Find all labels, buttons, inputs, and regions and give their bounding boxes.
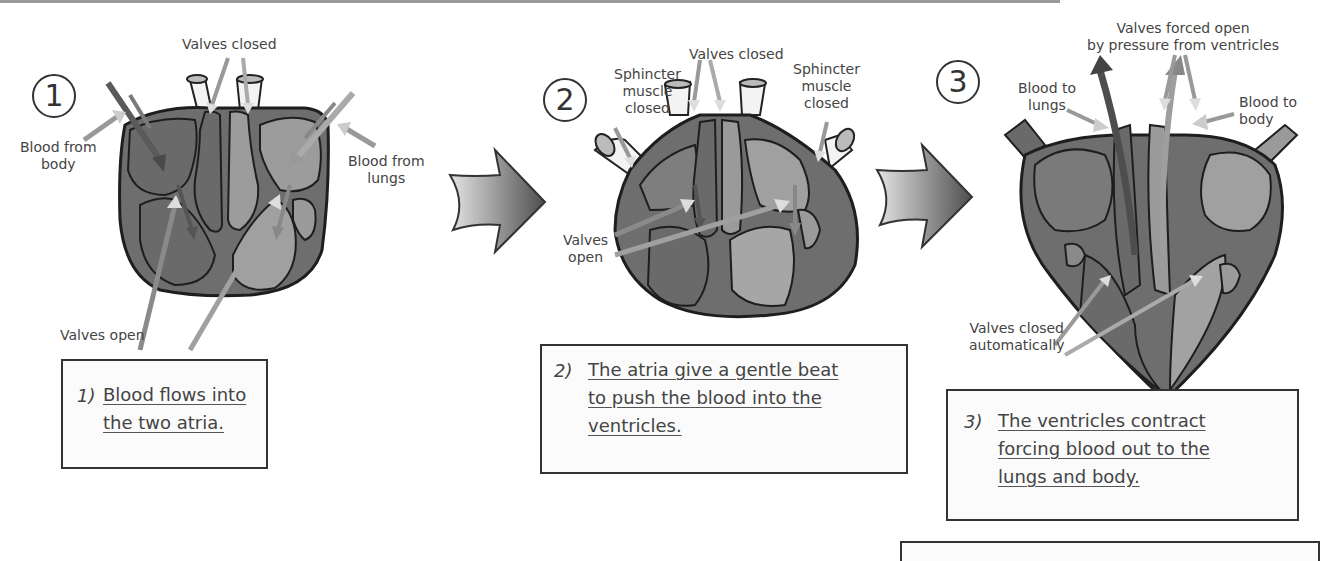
label-blood-from-lungs-1: Blood from lungs xyxy=(348,153,425,187)
label-blood-to-body: Blood to body xyxy=(1239,94,1297,128)
label-line: Blood to xyxy=(1018,80,1076,97)
caption-box-2: 2) The atria give a gentle beat to push … xyxy=(540,344,908,474)
caption-line: Blood flows into xyxy=(103,381,246,409)
label-line: lungs xyxy=(348,170,425,187)
label-line: Blood from xyxy=(20,139,97,156)
label-line: closed xyxy=(793,95,860,112)
label-valves-open-2: Valves open xyxy=(563,232,608,266)
transition-arrow-2 xyxy=(872,140,972,250)
step-number-1: 1 xyxy=(32,74,76,118)
caption-number-3: 3) xyxy=(964,411,982,432)
caption-box-3: 3) The ventricles contract forcing blood… xyxy=(946,389,1299,521)
label-sphincter-right: Sphincter muscle closed xyxy=(793,61,860,112)
next-caption-box-partial xyxy=(900,541,1320,561)
label-line: Sphincter xyxy=(793,61,860,78)
caption-line: ventricles. xyxy=(588,412,838,440)
caption-line: to push the blood into the xyxy=(588,384,838,412)
caption-number-2: 2) xyxy=(554,360,572,381)
label-line: body xyxy=(20,156,97,173)
label-valves-closed-1: Valves closed xyxy=(182,36,277,53)
label-line: Valves xyxy=(563,232,608,249)
label-line: closed xyxy=(614,100,681,117)
caption-text-1: Blood flows into the two atria. xyxy=(103,381,246,437)
heart-diagram-1 xyxy=(100,50,460,350)
label-valves-forced-open: Valves forced open by pressure from vent… xyxy=(1087,20,1279,54)
caption-line: The atria give a gentle beat xyxy=(588,356,838,384)
caption-line: forcing blood out to the xyxy=(998,435,1210,463)
caption-text-3: The ventricles contract forcing blood ou… xyxy=(998,407,1210,491)
caption-line: The ventricles contract xyxy=(998,407,1210,435)
transition-arrow-1 xyxy=(445,145,545,255)
label-line: Blood from xyxy=(348,153,425,170)
label-line: Valves closed xyxy=(969,320,1064,337)
label-line: Sphincter xyxy=(614,66,681,83)
label-blood-from-body-1: Blood from body xyxy=(20,139,97,173)
caption-text-2: The atria give a gentle beat to push the… xyxy=(588,356,838,440)
label-line: body xyxy=(1239,111,1297,128)
label-line: automatically xyxy=(969,337,1064,354)
label-blood-to-lungs: Blood to lungs xyxy=(1018,80,1076,114)
caption-number-1: 1) xyxy=(77,385,95,406)
label-valves-closed-2: Valves closed xyxy=(689,46,784,63)
caption-line: lungs and body. xyxy=(998,463,1210,491)
label-line: muscle xyxy=(793,78,860,95)
label-line: muscle xyxy=(614,83,681,100)
label-line: open xyxy=(563,249,608,266)
label-line: Valves forced open xyxy=(1087,20,1279,37)
step-number-2: 2 xyxy=(543,78,587,122)
label-line: by pressure from ventricles xyxy=(1087,37,1279,54)
label-line: Blood to xyxy=(1239,94,1297,111)
label-valves-open-1: Valves open xyxy=(60,327,145,344)
label-line: lungs xyxy=(1018,97,1076,114)
label-sphincter-left: Sphincter muscle closed xyxy=(614,66,681,117)
caption-line: the two atria. xyxy=(103,409,246,437)
top-rule xyxy=(0,0,1060,3)
step-number-3: 3 xyxy=(936,60,980,104)
pointer-blood-to-body xyxy=(1190,108,1240,138)
caption-box-1: 1) Blood flows into the two atria. xyxy=(61,359,268,469)
label-valves-closed-automatically: Valves closed automatically xyxy=(969,320,1064,354)
